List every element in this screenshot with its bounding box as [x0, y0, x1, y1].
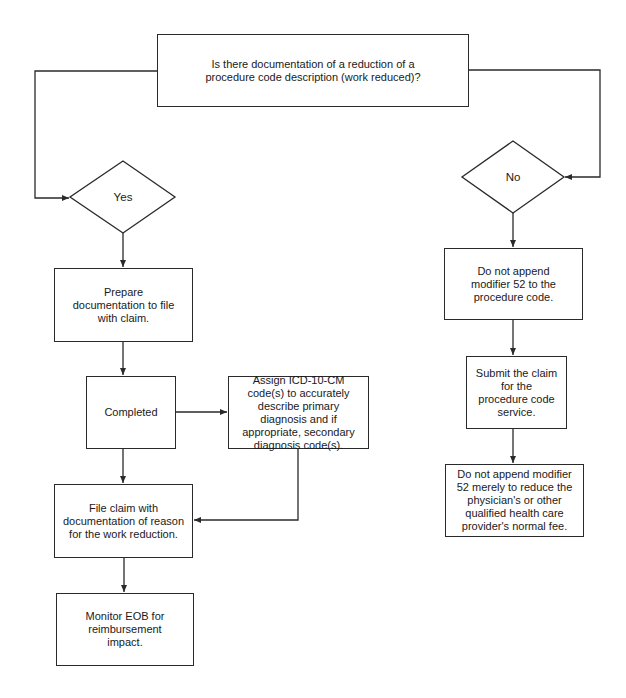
- assign-icd-box: Assign ICD-10-CM code(s) to accurately d…: [228, 376, 369, 449]
- file-claim-box: File claim with documentation of reason …: [54, 484, 193, 558]
- prepare-documentation-box: Prepare documentation to file with claim…: [54, 268, 193, 342]
- decision-yes-label: Yes: [114, 191, 133, 203]
- question-box: Is there documentation of a reduction of…: [157, 34, 469, 107]
- file-claim-text: File claim with documentation of reason …: [61, 502, 186, 541]
- question-text: Is there documentation of a reduction of…: [198, 58, 428, 84]
- submit-claim-box: Submit the claim for the procedure code …: [466, 356, 567, 429]
- decision-no-label: No: [506, 171, 521, 183]
- assign-icd-text: Assign ICD-10-CM code(s) to accurately d…: [235, 374, 362, 452]
- no-reduce-fee-box: Do not append modifier 52 merely to redu…: [445, 464, 584, 537]
- no-modifier-box: Do not append modifier 52 to the procedu…: [444, 248, 583, 320]
- edge-assign-file: [194, 449, 298, 520]
- submit-claim-text: Submit the claim for the procedure code …: [475, 367, 558, 419]
- completed-text: Completed: [104, 406, 157, 419]
- prepare-documentation-text: Prepare documentation to file with claim…: [67, 286, 180, 325]
- no-reduce-fee-text: Do not append modifier 52 merely to redu…: [450, 468, 579, 533]
- completed-box: Completed: [86, 376, 176, 449]
- no-modifier-text: Do not append modifier 52 to the procedu…: [459, 265, 568, 304]
- monitor-eob-text: Monitor EOB for reimbursement impact.: [71, 610, 179, 649]
- monitor-eob-box: Monitor EOB for reimbursement impact.: [56, 593, 194, 666]
